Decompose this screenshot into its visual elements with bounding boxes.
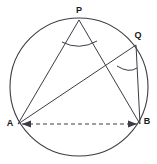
segment-PB — [79, 20, 140, 124]
angle-arc-at-Q — [117, 66, 137, 70]
segment-QA — [18, 45, 136, 124]
circumcircle — [10, 18, 148, 156]
arrow-A-end-icon — [22, 121, 31, 128]
vertex-label-P: P — [76, 5, 82, 15]
vertex-label-B: B — [144, 116, 151, 126]
vertex-label-A: A — [7, 118, 14, 128]
segment-QB — [136, 45, 140, 124]
geometry-canvas: P Q A B — [0, 0, 157, 164]
segment-PA — [18, 20, 79, 124]
vertex-label-Q: Q — [134, 30, 141, 40]
geometry-figure: P Q A B — [0, 0, 157, 164]
